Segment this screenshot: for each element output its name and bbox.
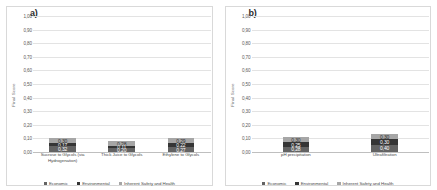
x-tick-label: Ultrafiltration: [344, 152, 426, 158]
y-tick-label: 0,70: [23, 54, 32, 59]
y-axis-tick-labels-a: 0,000,100,200,300,400,500,600,700,800,90…: [10, 16, 32, 152]
bar-column[interactable]: 0,400,300,30: [371, 16, 398, 152]
legend-label: Environmental: [82, 181, 109, 186]
legend-swatch-icon: [77, 182, 80, 185]
legend-a: EconomicEnvironmentalInherent Safety and…: [0, 181, 219, 186]
y-tick-label: 0,80: [23, 41, 32, 46]
y-tick-label: 1,00: [23, 14, 32, 19]
chart-panel-b: b) Final Score 0,000,100,200,300,400,500…: [219, 0, 437, 190]
legend-swatch-icon: [119, 182, 122, 185]
y-tick-label: 0,10: [242, 136, 251, 141]
y-tick-label: 0,40: [23, 95, 32, 100]
y-tick-label: 0,50: [23, 82, 32, 87]
legend-b: EconomicEnvironmentalInherent Safety and…: [219, 181, 437, 186]
y-axis-tick-labels-b: 0,000,100,200,300,400,500,600,700,800,90…: [229, 16, 251, 152]
bar-column[interactable]: 0,270,220,29: [168, 16, 195, 152]
bar-segment[interactable]: 0,40: [371, 145, 398, 152]
y-tick-label: 1,00: [242, 14, 251, 19]
y-tick-label: 0,60: [23, 68, 32, 73]
stacked-bar[interactable]: 0,320,170,30: [49, 134, 76, 152]
legend-label: Inherent Safety and Health: [343, 181, 394, 186]
plot-area-b: 0,280,250,300,400,300,30: [252, 16, 430, 152]
bar-column[interactable]: 0,320,170,30: [49, 16, 76, 152]
legend-label: Inherent Safety and Health: [124, 181, 175, 186]
stacked-bar[interactable]: 0,400,300,30: [371, 134, 398, 152]
legend-item[interactable]: Economic: [262, 181, 286, 186]
legend-item[interactable]: Inherent Safety and Health: [337, 181, 393, 186]
legend-item[interactable]: Environmental: [77, 181, 110, 186]
legend-swatch-icon: [337, 182, 340, 185]
bar-segment-label: 0,40: [380, 145, 389, 151]
y-tick-label: 0,80: [242, 41, 251, 46]
y-tick-label: 0,70: [242, 54, 251, 59]
chart-panel-a: a) Final Score 0,000,100,200,300,400,500…: [0, 0, 219, 190]
stacked-bar[interactable]: 0,200,110,28: [108, 134, 135, 152]
x-axis-tick-labels-a: Sucrose to Glycols (via Hydrogenation)Th…: [33, 152, 211, 170]
legend-label: Economic: [267, 181, 286, 186]
stacked-bar[interactable]: 0,270,220,29: [168, 134, 195, 152]
y-tick-label: 0,10: [23, 136, 32, 141]
legend-swatch-icon: [295, 182, 298, 185]
x-tick-label: Ethylene to Glycols: [155, 152, 207, 158]
bar-column[interactable]: 0,280,250,30: [283, 16, 310, 152]
bar-group-a: 0,320,170,300,200,110,280,270,220,29: [33, 16, 211, 152]
y-tick-label: 0,40: [242, 95, 251, 100]
legend-swatch-icon: [44, 182, 47, 185]
y-tick-label: 0,60: [242, 68, 251, 73]
bar-column[interactable]: 0,200,110,28: [108, 16, 135, 152]
x-tick-label: Sucrose to Glycols (via Hydrogenation): [37, 152, 89, 164]
y-tick-label: 0,00: [23, 150, 32, 155]
legend-item[interactable]: Environmental: [295, 181, 328, 186]
bar-group-b: 0,280,250,300,400,300,30: [252, 16, 430, 152]
y-tick-label: 0,50: [242, 82, 251, 87]
legend-label: Economic: [49, 181, 68, 186]
stacked-bar[interactable]: 0,280,250,30: [283, 134, 310, 152]
y-tick-label: 0,20: [242, 122, 251, 127]
y-tick-label: 0,00: [242, 150, 251, 155]
y-tick-label: 0,90: [23, 27, 32, 32]
y-tick-label: 0,30: [242, 109, 251, 114]
legend-swatch-icon: [262, 182, 265, 185]
x-tick-label: pH precipitation: [255, 152, 337, 158]
legend-label: Environmental: [301, 181, 328, 186]
x-axis-tick-labels-b: pH precipitationUltrafiltration: [252, 152, 430, 170]
y-tick-label: 0,90: [242, 27, 251, 32]
stacked-bar-figure: a) Final Score 0,000,100,200,300,400,500…: [0, 0, 437, 190]
legend-item[interactable]: Inherent Safety and Health: [119, 181, 175, 186]
plot-area-a: 0,320,170,300,200,110,280,270,220,29: [33, 16, 211, 152]
y-tick-label: 0,20: [23, 122, 32, 127]
y-tick-label: 0,30: [23, 109, 32, 114]
x-tick-label: Thick Juice to Glycols: [96, 152, 148, 158]
legend-item[interactable]: Economic: [44, 181, 68, 186]
